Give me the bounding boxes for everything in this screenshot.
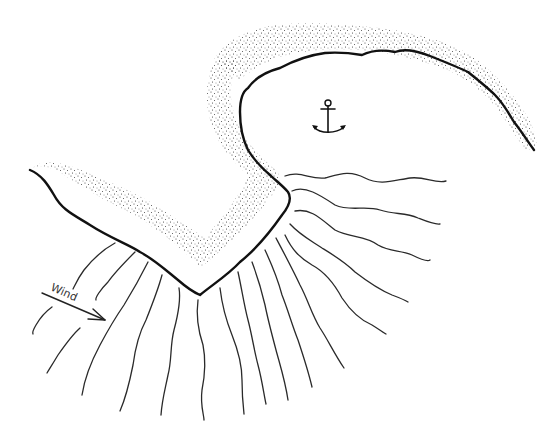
wave-crest <box>276 238 344 368</box>
wave-crest <box>220 288 244 414</box>
wave-crest <box>197 300 205 420</box>
wave-crest <box>96 252 135 300</box>
headland-and-bay-shore <box>240 50 534 175</box>
wave-crest <box>285 173 446 182</box>
anchor-icon <box>312 100 346 132</box>
wave-crest <box>47 328 80 373</box>
wave-crest <box>292 189 440 224</box>
wave-crest <box>265 250 312 387</box>
coastline <box>30 50 534 295</box>
sand-band <box>32 24 536 268</box>
wave-refraction-diagram: Wind <box>0 0 559 439</box>
wave-crest <box>252 262 288 400</box>
wave-crest <box>82 262 148 395</box>
wave-crest <box>33 307 52 334</box>
wave-crest <box>120 275 162 411</box>
wave-crest <box>161 288 180 415</box>
wave-crest <box>295 210 430 260</box>
